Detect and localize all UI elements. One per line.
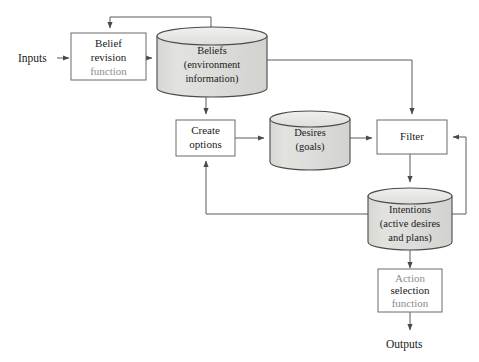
create-options-line-2: options [189, 138, 221, 150]
create-options-line-1: Create [191, 124, 220, 136]
process-create-options[interactable]: Create options [176, 120, 235, 156]
belief-revision-line-2: revision [91, 51, 127, 63]
intentions-line-3: and plans) [388, 232, 432, 244]
store-intentions[interactable]: Intentions (active desires and plans) [368, 188, 452, 250]
desires-cylinder-top [270, 111, 350, 127]
filter-label: Filter [400, 130, 424, 142]
store-desires[interactable]: Desires (goals) [270, 111, 350, 170]
beliefs-cylinder-top [157, 27, 267, 45]
action-selection-line-3: function [392, 297, 429, 309]
outputs-label: Outputs [386, 338, 423, 351]
process-belief-revision[interactable]: Belief revision function [71, 33, 146, 80]
flow-beliefs-to-filter [267, 60, 412, 114]
belief-revision-line-1: Belief [95, 37, 122, 49]
bdi-architecture-diagram: Belief revision function Create options … [0, 0, 479, 362]
intentions-line-1: Intentions [389, 204, 431, 215]
diagram-canvas: Belief revision function Create options … [0, 0, 479, 362]
inputs-label: Inputs [18, 52, 47, 65]
intentions-line-2: (active desires [380, 218, 440, 230]
action-selection-line-2: selection [390, 284, 430, 296]
process-filter[interactable]: Filter [377, 120, 447, 154]
belief-revision-line-3: function [90, 65, 127, 77]
beliefs-line-2: (environment [184, 59, 241, 71]
intentions-cylinder-top [368, 188, 452, 204]
flow-beliefs-to-belief-revision-feedback [110, 17, 211, 28]
process-action-selection[interactable]: Action selection function [378, 269, 442, 312]
store-beliefs[interactable]: Beliefs (environment information) [157, 27, 267, 97]
flow-intentions-to-filter-feedback [452, 137, 466, 214]
beliefs-line-1: Beliefs [197, 45, 227, 56]
action-selection-line-1: Action [395, 272, 425, 284]
desires-line-2: (goals) [295, 141, 325, 153]
desires-line-1: Desires [294, 127, 326, 138]
beliefs-line-3: information) [185, 73, 239, 85]
